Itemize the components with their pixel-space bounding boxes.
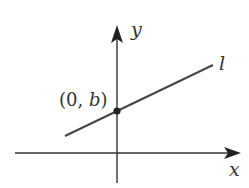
point-label-open: (0, <box>59 89 89 110</box>
point-label-close: ) <box>100 89 107 110</box>
line-label: l <box>219 52 225 74</box>
diagram-canvas: y x l (0, b) <box>0 0 249 188</box>
point-label-var: b <box>89 89 101 110</box>
x-axis-label: x <box>229 158 240 180</box>
y-axis-label: y <box>130 18 142 40</box>
y-intercept-point <box>113 107 120 114</box>
coordinate-diagram: y x l (0, b) <box>0 0 249 188</box>
point-label: (0, b) <box>59 89 107 110</box>
